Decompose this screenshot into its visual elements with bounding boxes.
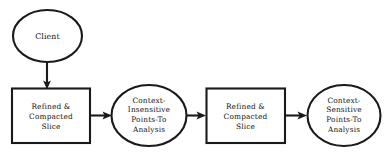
node-context-sensitive-line-2: Sensitive: [326, 105, 362, 114]
node-context-sensitive-points-to-analysis[interactable]: Context- Sensitive Points-To Analysis: [308, 85, 381, 146]
node-context-insensitive-points-to-analysis[interactable]: Context- Insensitive Points-To Analysis: [112, 85, 187, 146]
node-context-insensitive-line-1: Context-: [132, 96, 165, 105]
node-refined-compacted-slice-1[interactable]: Refined & Compacted Slice: [12, 89, 90, 144]
edge-ci-to-slice2: [187, 111, 206, 119]
node-context-insensitive-line-3: Points-To: [131, 115, 167, 124]
node-client-label: Client: [35, 32, 60, 41]
node-context-sensitive-line-1: Context-: [327, 96, 360, 105]
edge-slice1-to-ci: [90, 111, 112, 119]
node-refined-compacted-slice-1-line-3: Slice: [41, 122, 60, 131]
diagram-svg-surface: Client Refined & Compacted Slice Context…: [0, 0, 391, 158]
flowchart-diagram: Client Refined & Compacted Slice Context…: [0, 0, 391, 158]
node-refined-compacted-slice-2-line-2: Compacted: [224, 112, 268, 121]
edge-slice2-to-cs: [285, 111, 307, 119]
node-context-sensitive-line-3: Points-To: [326, 115, 362, 124]
node-context-insensitive-line-4: Analysis: [132, 125, 165, 134]
node-refined-compacted-slice-1-line-1: Refined &: [31, 102, 70, 111]
node-refined-compacted-slice-1-line-2: Compacted: [29, 112, 73, 121]
node-refined-compacted-slice-2-line-1: Refined &: [226, 102, 265, 111]
node-client[interactable]: Client: [13, 10, 82, 62]
node-refined-compacted-slice-2-line-3: Slice: [236, 122, 255, 131]
node-refined-compacted-slice-2[interactable]: Refined & Compacted Slice: [207, 89, 286, 144]
node-context-sensitive-line-4: Analysis: [327, 125, 360, 134]
edge-client-to-slice1: [43, 62, 51, 90]
node-context-insensitive-line-2: Insensitive: [128, 105, 170, 114]
